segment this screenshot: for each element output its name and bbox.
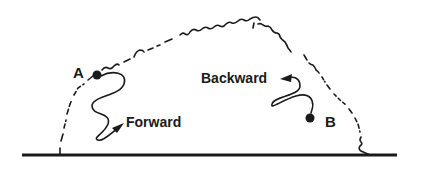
- backward-arrowhead-icon: [280, 74, 292, 82]
- point-b-label: B: [325, 114, 336, 129]
- point-b-dot: [306, 114, 315, 123]
- point-a-dot: [93, 71, 102, 80]
- point-a-label: A: [73, 65, 84, 80]
- backward-label: Backward: [201, 71, 267, 85]
- diagram-canvas: A Forward Backward B: [0, 0, 421, 170]
- dome-outline: [60, 17, 370, 155]
- forward-path-arrow: [92, 73, 125, 141]
- backward-path-arrow: [272, 77, 313, 113]
- forward-label: Forward: [126, 115, 181, 129]
